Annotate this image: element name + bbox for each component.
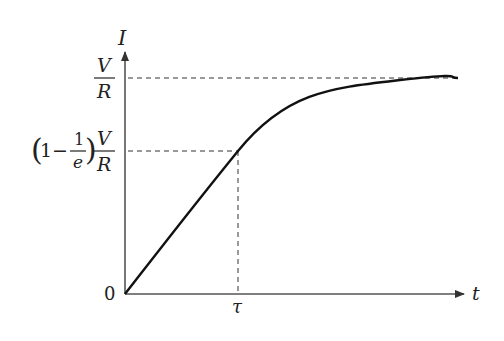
svg-text:V: V bbox=[97, 127, 113, 149]
svg-text:1: 1 bbox=[74, 130, 84, 149]
svg-text:R: R bbox=[96, 80, 111, 102]
svg-text:e: e bbox=[73, 152, 83, 172]
x-axis-label: t bbox=[472, 282, 480, 304]
tau-label: τ bbox=[232, 296, 243, 317]
svg-text:1−: 1− bbox=[40, 139, 68, 161]
svg-text:V: V bbox=[97, 54, 113, 76]
rl-current-diagram: I t 0 τ V R ( 1− 1 e ) V R bbox=[0, 0, 504, 341]
y-axis-label: I bbox=[117, 26, 127, 50]
v-over-r-label: V R bbox=[94, 54, 115, 102]
current-curve bbox=[125, 76, 458, 294]
svg-text:R: R bbox=[96, 153, 111, 175]
tau-level-label: ( 1− 1 e ) V R bbox=[31, 127, 115, 175]
origin-label: 0 bbox=[104, 283, 115, 304]
svg-text:): ) bbox=[85, 132, 97, 167]
